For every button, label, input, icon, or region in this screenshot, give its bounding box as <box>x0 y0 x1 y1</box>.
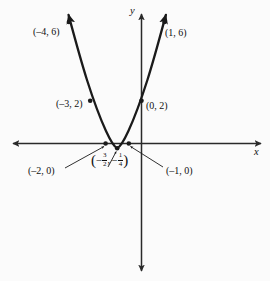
vertex-fraction-x: 3 2 <box>102 152 107 168</box>
vertex-minus-y: – <box>112 155 118 165</box>
point-marker-neg1-0 <box>127 141 132 146</box>
point-marker-neg2-0 <box>103 141 108 146</box>
vertex-numerator-y: 1 <box>118 152 123 159</box>
label-point-vertex: ( – 3 2 , – 1 4 ) <box>91 152 128 168</box>
point-marker-vertex <box>115 146 120 151</box>
vertex-minus-x: – <box>96 155 102 165</box>
label-point-neg4-6: (–4, 6) <box>33 27 60 37</box>
leader-line-neg1-0 <box>131 147 164 168</box>
point-marker-neg4-6 <box>67 20 72 25</box>
point-marker-1-6 <box>162 20 167 25</box>
label-point-neg3-2: (–3, 2) <box>56 99 83 109</box>
label-point-neg1-0: (–1, 0) <box>166 166 193 176</box>
label-point-1-6: (1, 6) <box>165 28 187 38</box>
point-marker-neg3-2 <box>88 99 93 104</box>
parabola-curve <box>69 15 166 148</box>
parabola-figure: y x (–4, 6) (1, 6) (–3, 2) (0, 2) (–2, 0… <box>0 0 270 281</box>
graph-canvas <box>0 0 270 281</box>
vertex-denominator-x: 2 <box>103 161 108 168</box>
vertex-close-paren: ) <box>123 152 128 167</box>
point-marker-0-2 <box>139 99 144 104</box>
x-axis-label: x <box>254 147 259 158</box>
label-point-0-2: (0, 2) <box>146 101 168 111</box>
vertex-fraction-y: 1 4 <box>118 152 123 168</box>
label-point-neg2-0: (–2, 0) <box>28 166 55 176</box>
vertex-denominator-y: 4 <box>118 161 123 168</box>
vertex-open-paren: ( <box>91 152 96 167</box>
vertex-numerator-x: 3 <box>103 152 108 159</box>
y-axis-label: y <box>130 6 135 17</box>
